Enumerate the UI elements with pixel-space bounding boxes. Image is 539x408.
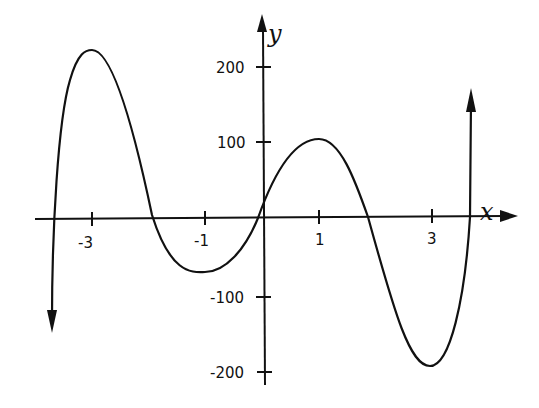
x-axis-arrow-icon — [500, 210, 518, 222]
x-tick-label: 3 — [427, 230, 437, 248]
x-axis-label: x — [480, 198, 494, 226]
y-tick-label: -200 — [210, 364, 244, 382]
y-axis-label: y — [267, 20, 282, 48]
x-tick-label: -1 — [194, 232, 209, 250]
chart-canvas: -3 -1 1 3 200 100 -100 -200 y x — [0, 0, 539, 408]
y-tick-label: -100 — [210, 289, 244, 307]
x-axis — [35, 216, 505, 219]
y-tick-label: 200 — [216, 59, 245, 77]
curve-arrow-down-icon — [47, 310, 57, 333]
x-tick-label: 1 — [315, 231, 325, 249]
function-curve — [52, 50, 471, 366]
x-tick-label: -3 — [78, 234, 93, 252]
curve-arrow-up-icon — [466, 88, 476, 112]
y-tick-label: 100 — [217, 134, 246, 152]
graph-svg: -3 -1 1 3 200 100 -100 -200 y x — [0, 0, 539, 408]
y-axis-arrow-icon — [257, 14, 267, 32]
